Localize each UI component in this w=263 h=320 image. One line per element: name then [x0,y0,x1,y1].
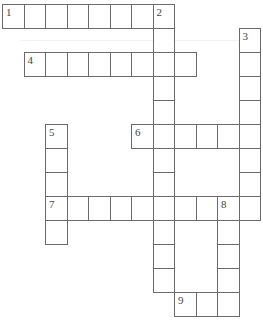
crossword-cell[interactable]: 9 [174,292,197,317]
crossword-cell[interactable] [88,196,111,221]
divider [20,40,250,41]
crossword-cell[interactable] [131,196,154,221]
crossword-cell[interactable] [217,244,240,269]
clue-number: 1 [6,7,12,18]
crossword-cell[interactable] [153,52,176,77]
crossword-cell[interactable] [174,124,197,149]
crossword-cell[interactable] [131,52,154,77]
clue-number: 5 [49,127,55,138]
crossword-cell[interactable] [239,76,262,101]
crossword-cell[interactable] [110,52,133,77]
crossword-cell[interactable] [153,76,176,101]
crossword-cell[interactable] [45,52,68,77]
crossword-cell[interactable] [131,4,154,29]
crossword-cell[interactable] [217,124,240,149]
clue-number: 8 [221,199,227,210]
crossword-cell[interactable] [239,196,262,221]
clue-number: 2 [157,7,163,18]
crossword-cell[interactable] [153,268,176,293]
crossword-cell[interactable] [24,4,47,29]
crossword-cell[interactable] [153,148,176,173]
clue-number: 4 [28,55,34,66]
crossword-cell[interactable]: 3 [239,28,262,53]
crossword-cell[interactable] [67,4,90,29]
crossword-cell[interactable] [196,124,219,149]
crossword-cell[interactable] [153,172,176,197]
crossword-cell[interactable] [153,100,176,125]
crossword-cell[interactable] [88,4,111,29]
crossword-cell[interactable] [196,196,219,221]
crossword-cell[interactable]: 6 [131,124,154,149]
crossword-cell[interactable] [153,244,176,269]
clue-number: 6 [135,127,141,138]
crossword-cell[interactable] [45,148,68,173]
crossword-cell[interactable] [217,268,240,293]
crossword-cell[interactable] [153,124,176,149]
crossword-cell[interactable]: 8 [217,196,240,221]
crossword-cell[interactable] [45,220,68,245]
crossword-cell[interactable] [153,220,176,245]
crossword-cell[interactable] [174,52,197,77]
crossword-cell[interactable]: 5 [45,124,68,149]
crossword-cell[interactable] [239,52,262,77]
crossword-cell[interactable]: 4 [24,52,47,77]
crossword-cell[interactable] [110,196,133,221]
crossword-cell[interactable] [110,4,133,29]
clue-number: 7 [49,199,55,210]
clue-number: 9 [178,295,184,306]
crossword-cell[interactable] [45,4,68,29]
crossword-cell[interactable] [45,172,68,197]
crossword-cell[interactable] [217,292,240,317]
clue-number: 3 [243,31,249,42]
crossword-cell[interactable] [153,28,176,53]
crossword-cell[interactable] [217,220,240,245]
crossword-cell[interactable] [196,292,219,317]
crossword-cell[interactable] [153,196,176,221]
crossword-cell[interactable] [67,52,90,77]
crossword-grid: 123457689 [0,0,263,320]
crossword-cell[interactable]: 1 [2,4,25,29]
crossword-cell[interactable] [88,52,111,77]
crossword-cell[interactable] [239,172,262,197]
crossword-cell[interactable] [239,100,262,125]
crossword-cell[interactable] [239,124,262,149]
crossword-cell[interactable] [239,148,262,173]
crossword-cell[interactable] [174,196,197,221]
crossword-cell[interactable]: 7 [45,196,68,221]
crossword-cell[interactable]: 2 [153,4,176,29]
crossword-cell[interactable] [67,196,90,221]
